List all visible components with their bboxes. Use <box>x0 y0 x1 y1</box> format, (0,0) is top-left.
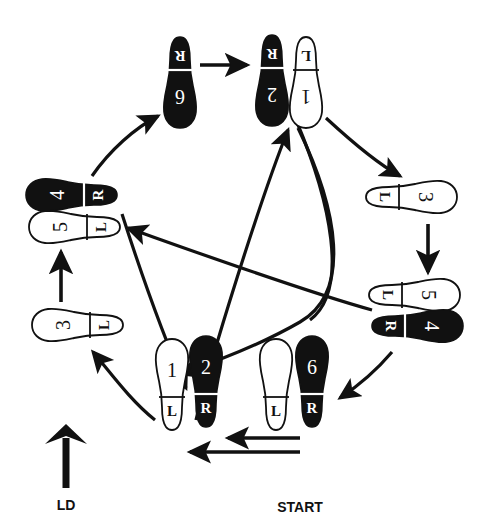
footprint-step-number: 6 <box>307 356 317 378</box>
footprint-heel-label: L <box>380 290 396 300</box>
footprint-left-4[interactable]: 4 R <box>26 179 117 212</box>
footprint-right-4[interactable]: 4 R <box>372 310 463 343</box>
footprint-step-number: 2 <box>267 84 277 106</box>
footprint-heel-label: L <box>93 222 109 232</box>
arrow-bottom-to-left-3 <box>93 352 155 420</box>
footprint-bottom-1[interactable]: 1 L <box>156 339 189 430</box>
footprint-start-6[interactable]: 6 R <box>296 336 329 427</box>
footprint-left-5[interactable]: 5 L <box>29 211 120 244</box>
footprint-heel-label: L <box>167 403 177 419</box>
footprint-step-number: 2 <box>201 356 211 378</box>
footprint-step-number: 5 <box>418 290 440 300</box>
footprint-step-number: 3 <box>415 192 437 202</box>
footprint-step-number: 1 <box>167 359 177 381</box>
footprint-step-number: 3 <box>52 320 74 330</box>
footprint-step-number: 6 <box>175 86 185 108</box>
footprint-heel-label: R <box>90 189 106 200</box>
footprint-heel-label: R <box>307 400 318 416</box>
dance-step-diagram: 6 R 1 L 2 R 5 L 4 R <box>0 0 487 522</box>
footprint-bottom-2[interactable]: 2 R <box>190 336 223 427</box>
footprint-heel-label: L <box>301 48 311 64</box>
footprint-step-number: 1 <box>301 86 311 108</box>
footprint-heel-label: R <box>266 46 277 62</box>
footprint-heel-label: L <box>96 320 112 330</box>
footprint-step-number: 4 <box>421 321 443 331</box>
footprint-step-number: 5 <box>49 222 71 232</box>
arrow-left-4-to-top-6 <box>92 116 158 176</box>
footprint-step-number: 4 <box>46 190 68 200</box>
arrow-top-1-to-right-3 <box>326 118 400 176</box>
footprint-right-5[interactable]: 5 L <box>369 279 460 312</box>
arrow-layer <box>61 65 428 452</box>
footprint-heel-label: R <box>383 321 399 332</box>
footprint-top-2[interactable]: 2 R <box>256 35 289 126</box>
line-of-dance-label: LD <box>57 497 76 513</box>
line-of-dance-arrow <box>45 424 87 488</box>
footprint-left-3[interactable]: 3 L <box>32 309 123 342</box>
footprint-heel-label: L <box>377 192 393 202</box>
arrow-right-4-to-start <box>340 352 392 398</box>
footprint-heel-label: R <box>174 48 185 64</box>
footprint-right-3[interactable]: 3 L <box>366 181 457 214</box>
footprint-top-1[interactable]: 1 L <box>290 37 323 128</box>
footprint-heel-label: L <box>271 403 281 419</box>
start-label: START <box>277 499 323 515</box>
footprint-start-left[interactable]: L <box>260 339 293 430</box>
diagram-canvas: 6 R 1 L 2 R 5 L 4 R <box>0 0 487 522</box>
footprint-top-6[interactable]: 6 R <box>164 37 197 128</box>
footprint-heel-label: R <box>201 400 212 416</box>
